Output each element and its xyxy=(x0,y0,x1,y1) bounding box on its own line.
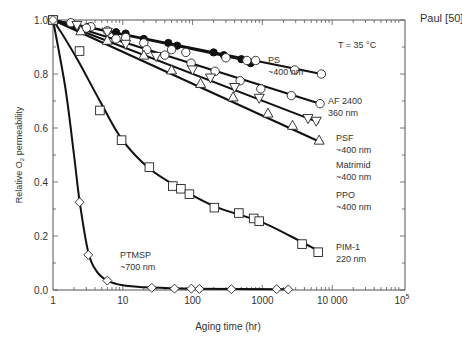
data-point-af-2400 xyxy=(243,56,251,64)
series-label-ptmsp: ~700 nm xyxy=(120,262,155,272)
data-point-pim-1 xyxy=(117,136,126,145)
series-label-ppo: PPO xyxy=(336,190,355,200)
x-tick-label-exponent: 5 xyxy=(406,293,410,300)
series-label-pim-1: 220 nm xyxy=(336,254,366,264)
data-point-ptmsp xyxy=(227,285,236,294)
data-point-pim-1 xyxy=(210,203,219,212)
data-point-ps xyxy=(210,49,217,56)
source-label: Paul [50] xyxy=(420,12,462,24)
data-point-pim-1 xyxy=(177,184,186,193)
x-tick-label: 100 xyxy=(184,295,201,306)
y-tick-label: 0.4 xyxy=(34,177,48,188)
data-point-af-2400 xyxy=(317,70,325,78)
series-label-ps: ~400 nm xyxy=(268,67,303,77)
temperature-annotation: T = 35 °C xyxy=(338,40,377,50)
y-tick-label: 0.8 xyxy=(34,69,48,80)
data-point-pim-1 xyxy=(145,163,154,172)
data-point-pim-1 xyxy=(298,240,307,249)
series-label-psf: ~400 nm xyxy=(336,145,371,155)
series-label-ptmsp: PTMSP xyxy=(120,250,151,260)
data-point-ptmsp xyxy=(272,285,281,294)
data-point-pim-1 xyxy=(235,209,244,218)
data-point-ppo xyxy=(288,120,298,129)
x-tick-label: 1 xyxy=(50,295,56,306)
x-tick-label-base: 1 xyxy=(50,295,56,306)
x-tick-label-base: 1000 xyxy=(251,295,274,306)
series-label-pim-1: PIM-1 xyxy=(336,242,360,252)
data-point-psf xyxy=(161,51,169,59)
data-point-af-2400 xyxy=(182,48,190,56)
data-point-pim-1 xyxy=(168,182,177,191)
data-point-psf xyxy=(112,35,120,43)
x-tick-label-base: 100 xyxy=(184,295,201,306)
data-point-pim-1 xyxy=(314,248,323,257)
series-label-matrimid: ~400 nm xyxy=(336,172,371,182)
data-point-psf xyxy=(257,85,265,93)
y-tick-label: 0.0 xyxy=(34,285,48,296)
x-tick-label: 1000 xyxy=(251,295,274,306)
series-label-psf: PSF xyxy=(336,133,354,143)
data-point-ptmsp xyxy=(284,285,293,294)
data-point-af-2400 xyxy=(222,54,230,62)
data-point-matrimid xyxy=(188,66,198,75)
series-label-ppo: ~400 nm xyxy=(336,202,371,212)
y-axis-label: Relative O2 permeability xyxy=(14,106,25,203)
fit-line-ppo xyxy=(53,20,319,142)
data-point-matrimid xyxy=(311,117,321,126)
data-point-ptmsp xyxy=(147,283,156,292)
chart-container: 110100100010 0001050.00.20.40.60.81.0PS~… xyxy=(0,0,462,338)
x-tick-label-base: 10 000 xyxy=(317,295,348,306)
data-point-ptmsp xyxy=(75,198,84,207)
data-point-ppo xyxy=(196,78,206,87)
y-tick-label: 0.6 xyxy=(34,123,48,134)
data-point-psf xyxy=(287,91,295,99)
x-tick-label: 10 xyxy=(117,295,129,306)
x-tick-label: 105 xyxy=(394,293,409,306)
data-point-pim-1 xyxy=(96,106,105,115)
fit-line-psf xyxy=(53,20,320,104)
data-point-pim-1 xyxy=(255,217,264,226)
y-axis-label-pre: Relative O xyxy=(14,161,24,203)
data-point-ptmsp xyxy=(195,284,204,293)
x-tick-label-base: 10 xyxy=(394,295,406,306)
data-point-ptmsp xyxy=(103,276,112,285)
data-point-ppo xyxy=(263,108,273,117)
x-axis-label: Aging time (hr) xyxy=(195,321,261,332)
data-point-ptmsp xyxy=(170,284,179,293)
data-point-psf xyxy=(316,100,324,108)
x-tick-label-base: 10 xyxy=(117,295,129,306)
data-point-ppo xyxy=(228,92,238,101)
data-point-ptmsp xyxy=(84,250,93,259)
aging-permeability-chart: 110100100010 0001050.00.20.40.60.81.0PS~… xyxy=(0,0,462,338)
data-point-pim-1 xyxy=(75,47,84,56)
series-label-ps: PS xyxy=(268,55,280,65)
series-label-matrimid: Matrimid xyxy=(336,160,371,170)
data-point-pim-1 xyxy=(185,190,194,199)
x-tick-label: 10 000 xyxy=(317,295,348,306)
series-label-af-2400: AF 2400 xyxy=(328,96,362,106)
y-axis-label-post: permeability xyxy=(14,106,24,158)
data-point-af-2400 xyxy=(251,56,259,64)
series-label-af-2400: 360 nm xyxy=(328,108,358,118)
y-tick-label: 0.2 xyxy=(34,231,48,242)
y-tick-label: 1.0 xyxy=(34,15,48,26)
